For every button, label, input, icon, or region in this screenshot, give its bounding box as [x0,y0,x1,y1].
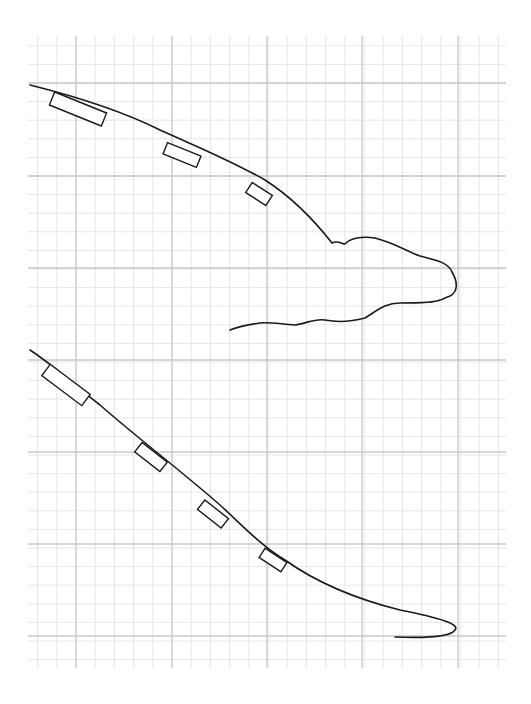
graph-paper-canvas [0,0,531,704]
marker-rect [49,92,106,126]
upper-profile [30,85,456,330]
grid [28,36,506,668]
lower-profile [30,350,456,637]
sketch-figures [30,85,456,637]
marker-rect [197,500,228,528]
profile-curve [30,350,456,637]
